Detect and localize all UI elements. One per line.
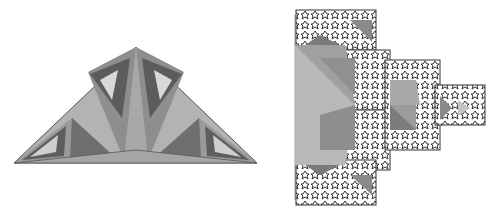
fractal-tree-figure xyxy=(280,0,497,213)
fractal-triangle-figure xyxy=(0,0,270,213)
fractal-triangle-graphic xyxy=(0,0,270,213)
fractal-tree-graphic xyxy=(280,0,497,213)
